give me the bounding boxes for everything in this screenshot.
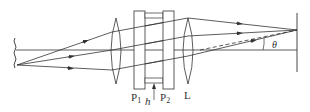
spacer-bottom [145,78,163,83]
interferometer-diagram: P1 h P2 L θ [0,0,310,112]
label-p1: P1 [131,91,141,105]
rays-source-to-lens [17,32,112,70]
focusing-lens-l [183,18,193,84]
rays-through-plates [112,18,188,70]
source-wavy-line [14,38,16,68]
spacer-top [145,13,163,18]
label-h: h [145,95,151,107]
label-l: L [184,89,191,101]
label-p2: P2 [160,91,170,105]
plate-p1 [134,11,145,89]
angle-arc [263,38,264,50]
label-theta: θ [272,39,277,50]
collimating-lens [111,18,121,84]
